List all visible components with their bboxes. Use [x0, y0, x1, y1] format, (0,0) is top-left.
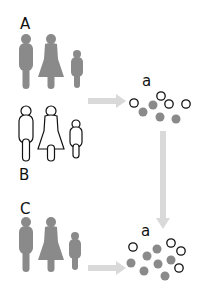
arrow-down-icon — [156, 131, 170, 229]
cluster-top-label: a — [142, 72, 151, 90]
child-figure-icon — [71, 50, 83, 88]
open-dot — [165, 100, 173, 108]
filled-dot — [154, 260, 163, 269]
filled-dot — [127, 259, 136, 268]
man-figure-icon — [19, 34, 33, 89]
man-figure-icon — [19, 217, 33, 272]
label-group-b: B — [19, 166, 29, 184]
cluster-top — [130, 92, 190, 124]
filled-dot — [156, 113, 165, 122]
woman-figure-icon — [38, 217, 64, 272]
open-dot — [175, 264, 183, 272]
open-dot — [167, 239, 175, 247]
label-group-c: C — [20, 200, 30, 218]
open-dot — [130, 99, 138, 107]
arrow-right-icon — [88, 261, 126, 275]
open-dot — [129, 243, 137, 251]
arrow-right-icon — [88, 94, 126, 108]
open-dot — [182, 100, 190, 108]
filled-dot — [143, 252, 152, 261]
man-outline-icon — [19, 106, 33, 161]
filled-dot — [153, 245, 162, 254]
diagram-canvas: A B C a — [0, 0, 203, 292]
label-group-a: A — [20, 15, 31, 33]
filled-dot — [172, 115, 181, 124]
open-dot — [157, 92, 165, 100]
group-a-figures — [19, 34, 83, 89]
filled-dot — [149, 101, 158, 110]
filled-dot — [167, 256, 176, 265]
group-c-figures — [19, 217, 81, 272]
cluster-bottom-label: a — [141, 222, 150, 240]
open-dot — [177, 247, 185, 255]
woman-outline-icon — [38, 106, 64, 161]
filled-dot — [161, 272, 170, 281]
filled-dot — [139, 108, 148, 117]
woman-figure-icon — [38, 34, 64, 89]
cluster-bottom — [127, 239, 186, 281]
filled-dot — [140, 267, 149, 276]
child-figure-icon — [69, 232, 81, 270]
group-b-figures — [19, 106, 82, 161]
child-outline-icon — [70, 120, 82, 158]
